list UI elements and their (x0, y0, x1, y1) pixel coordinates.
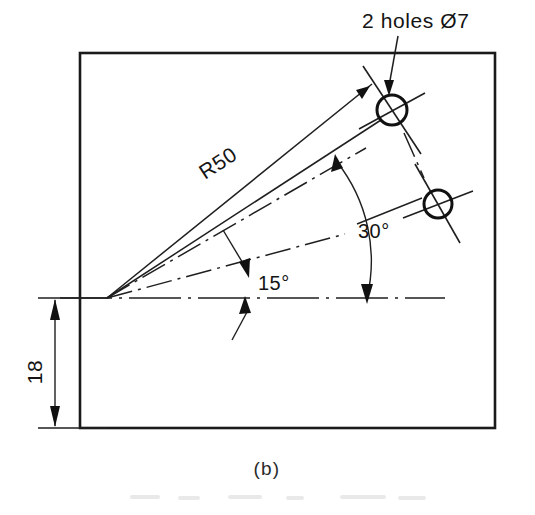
dimension-18-label: 18 (23, 360, 46, 385)
hole-note-label: 2 holes Ø7 (362, 9, 470, 32)
figure-caption: (b) (254, 458, 281, 479)
drawing-canvas: R50 2 holes Ø7 30° (0, 0, 535, 515)
technical-drawing-figure: R50 2 holes Ø7 30° (0, 0, 535, 515)
angle-30-label: 30° (358, 220, 390, 242)
angle-15-label: 15° (258, 272, 290, 294)
